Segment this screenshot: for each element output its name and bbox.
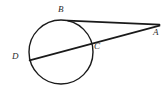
vertex-label-a: A: [153, 28, 159, 37]
vertex-label-d: D: [12, 52, 19, 61]
geometry-figure: B A C D: [0, 0, 168, 90]
tangent-line-ab: [68, 21, 160, 25]
vertex-label-b: B: [58, 5, 64, 14]
vertex-label-c: C: [94, 42, 100, 51]
diagram-canvas: [0, 0, 168, 90]
